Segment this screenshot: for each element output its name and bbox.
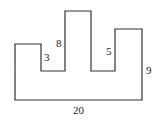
figure: 3 8 5 9 20 (0, 0, 162, 126)
label-right-side: 9 (146, 64, 152, 76)
label-bottom: 20 (73, 104, 85, 116)
label-left-notch: 3 (44, 51, 50, 63)
label-middle-prong: 8 (56, 37, 62, 49)
shape-outline (15, 11, 142, 100)
label-right-notch: 5 (106, 45, 112, 57)
